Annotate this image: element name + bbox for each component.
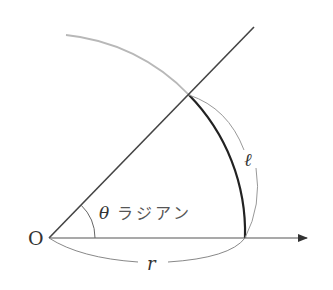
- radian-diagram: O θ ラジアン r ℓ: [0, 0, 333, 290]
- angle-unit-label: ラジアン: [117, 204, 192, 223]
- radius-bracket-left: [49, 238, 138, 262]
- circle-arc-outer: [66, 35, 189, 95]
- arc-length-label: ℓ: [244, 149, 252, 170]
- arc-length-bracket-lower: [245, 168, 258, 238]
- angle-theta-label: θ: [99, 203, 109, 223]
- radius-label: r: [147, 253, 157, 274]
- radius-bracket-right: [168, 238, 245, 262]
- angle-marker-arc: [81, 205, 95, 238]
- arc-length-highlight: [189, 95, 245, 238]
- origin-label: O: [28, 227, 44, 249]
